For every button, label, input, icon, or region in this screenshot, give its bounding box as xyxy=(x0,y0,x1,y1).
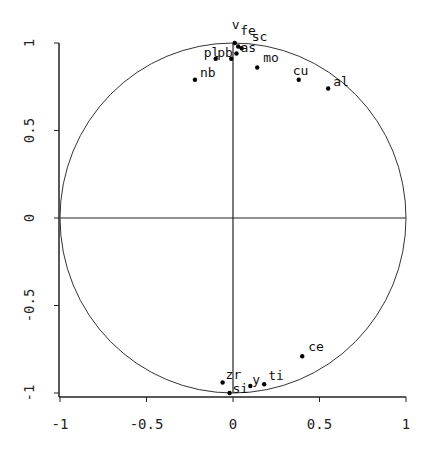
y-tick-label: -1 xyxy=(21,385,37,402)
x-tick-label: -1 xyxy=(52,416,69,432)
y-tick-label: 0.5 xyxy=(21,118,37,143)
data-point-cu xyxy=(297,78,301,82)
point-label-ce: ce xyxy=(308,339,324,354)
point-label-al: al xyxy=(333,74,349,89)
data-point-ti xyxy=(262,382,266,386)
x-axis-ticks: -1-0.500.51 xyxy=(52,397,411,432)
data-points: vfescpbplasnbmocualcezrsiyti xyxy=(193,17,349,396)
x-tick-label: 1 xyxy=(402,416,410,432)
point-label-mo: mo xyxy=(263,50,279,65)
point-label-v: v xyxy=(232,17,240,32)
point-label-si: si xyxy=(233,381,249,396)
x-tick-label: 0.5 xyxy=(307,416,332,432)
y-tick-label: -0.5 xyxy=(21,289,37,323)
point-label-as: as xyxy=(240,40,256,55)
data-point-al xyxy=(326,86,330,90)
point-label-nb: nb xyxy=(200,65,216,80)
data-point-zr xyxy=(220,380,224,384)
point-label-pl: pl xyxy=(204,45,220,60)
point-label-ti: ti xyxy=(268,368,284,383)
correlation-circle-chart: vfescpbplasnbmocualcezrsiyti -1-0.500.51… xyxy=(0,0,430,459)
data-point-mo xyxy=(255,65,259,69)
y-tick-label: 1 xyxy=(21,39,37,47)
data-point-v xyxy=(233,41,237,45)
data-point-si xyxy=(227,391,231,395)
x-tick-label: -0.5 xyxy=(130,416,164,432)
point-label-y: y xyxy=(252,372,260,387)
axes xyxy=(59,43,406,397)
x-tick-label: 0 xyxy=(229,416,237,432)
y-tick-label: 0 xyxy=(21,214,37,222)
point-label-pb: pb xyxy=(217,45,233,60)
point-label-zr: zr xyxy=(226,367,242,382)
data-point-as xyxy=(234,51,238,55)
data-point-nb xyxy=(193,78,197,82)
y-axis-ticks: -1-0.500.51 xyxy=(21,39,59,402)
data-point-ce xyxy=(300,354,304,358)
point-label-cu: cu xyxy=(293,63,309,78)
